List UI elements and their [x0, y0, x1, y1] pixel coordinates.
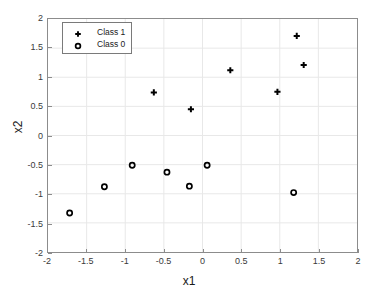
- x-tick-mark: [125, 249, 126, 253]
- y-tick-mark: [48, 47, 52, 48]
- y-axis-title: x2: [11, 97, 25, 157]
- data-point-circle: [130, 163, 135, 168]
- y-tick-mark: [48, 136, 52, 137]
- legend-label-class-1: Class 1: [89, 27, 125, 37]
- y-tick-label: -0.5: [14, 160, 43, 169]
- x-tick-mark: [164, 249, 165, 253]
- y-tick-label: 1.5: [14, 43, 43, 52]
- x-tick-label: -2: [43, 257, 51, 266]
- plus-marker-icon: [67, 26, 89, 38]
- x-tick-label: -1: [121, 257, 129, 266]
- x-tick-mark: [203, 249, 204, 253]
- legend-label-class-0: Class 0: [89, 39, 125, 49]
- data-point-circle: [205, 163, 210, 168]
- data-point-circle: [291, 190, 296, 195]
- y-tick-label: -2: [14, 249, 43, 258]
- circle-marker-icon: [67, 38, 89, 50]
- data-point-plus: [301, 62, 307, 68]
- y-tick-mark: [48, 18, 52, 19]
- x-tick-label: 0: [200, 257, 205, 266]
- y-tick-label: 1: [14, 72, 43, 81]
- x-tick-mark: [319, 249, 320, 253]
- y-tick-mark: [48, 106, 52, 107]
- y-tick-label: 2: [14, 14, 43, 23]
- data-point-plus: [188, 106, 194, 112]
- x-tick-mark: [86, 249, 87, 253]
- legend-entry-class-0: Class 0: [67, 38, 125, 50]
- data-point-plus: [227, 67, 233, 73]
- x-tick-label: 2: [355, 257, 360, 266]
- y-tick-mark: [48, 194, 52, 195]
- y-tick-mark: [48, 224, 52, 225]
- y-tick-label: -1: [14, 190, 43, 199]
- y-tick-mark: [48, 253, 52, 254]
- x-tick-label: 0.5: [235, 257, 248, 266]
- x-tick-mark: [358, 249, 359, 253]
- x-axis-title: x1: [0, 274, 378, 288]
- y-tick-mark: [48, 77, 52, 78]
- x-tick-label: -0.5: [156, 257, 172, 266]
- legend: Class 1 Class 0: [62, 22, 132, 54]
- data-point-circle: [187, 184, 192, 189]
- scatter-plot-figure: -2-1.5-1-0.500.511.52 -2-1.5-1-0.500.511…: [0, 0, 378, 302]
- data-point-plus: [151, 89, 157, 95]
- data-point-circle: [164, 170, 169, 175]
- data-point-circle: [102, 184, 107, 189]
- x-tick-label: 1.5: [313, 257, 326, 266]
- x-tick-mark: [241, 249, 242, 253]
- data-point-circle: [67, 210, 72, 215]
- x-tick-mark: [280, 249, 281, 253]
- legend-entry-class-1: Class 1: [67, 26, 125, 38]
- y-tick-mark: [48, 165, 52, 166]
- data-point-plus: [294, 33, 300, 39]
- x-tick-label: -1.5: [78, 257, 94, 266]
- y-tick-label: -1.5: [14, 219, 43, 228]
- data-point-plus: [274, 89, 280, 95]
- x-tick-label: 1: [278, 257, 283, 266]
